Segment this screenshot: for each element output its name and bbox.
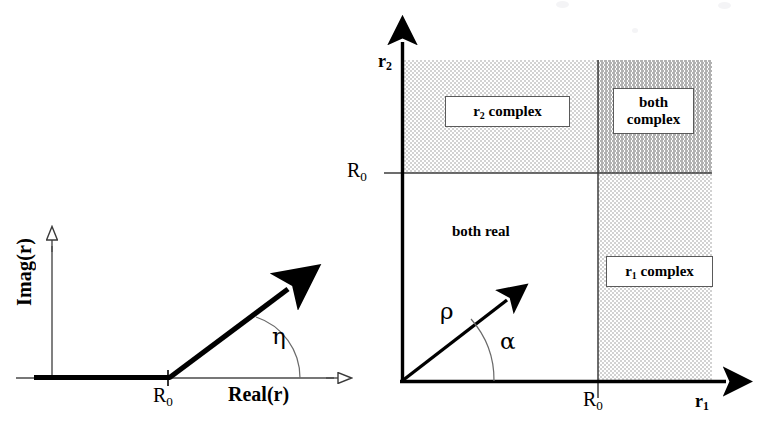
left-x-axis-label: Real(r) [228, 384, 289, 404]
left-r0-tick-label: R0 [153, 385, 173, 408]
right-rho-label: ρ [440, 300, 454, 323]
left-r0-subscript: 0 [166, 394, 173, 409]
right-y-axis-label: r2 [378, 52, 392, 73]
left-y-axis-label: Imag(r) [14, 238, 34, 306]
region-label-r1-complex: r1 complex [606, 256, 713, 287]
right-alpha-arc [471, 319, 494, 381]
right-x-axis-label: r1 [695, 392, 709, 413]
right-x-r0-label: R0 [583, 389, 603, 412]
left-panel-group [16, 240, 338, 386]
right-y-r0-subscript: 0 [360, 169, 367, 184]
left-eta-angle-label: η [272, 325, 286, 348]
right-y-axis-letter: r [378, 51, 386, 71]
region-label-r1-complex-text: r1 complex [625, 263, 694, 281]
region-label-r2-complex-text: r2 complex [473, 103, 542, 121]
right-x-r0-letter: R [583, 388, 596, 410]
region-label-both-real: both real [452, 224, 510, 239]
left-eta-ray [169, 289, 288, 378]
right-y-r0-letter: R [347, 159, 360, 181]
right-x-r0-subscript: 0 [596, 398, 603, 413]
right-y-r0-label: R0 [347, 160, 367, 183]
left-r0-letter: R [153, 384, 166, 406]
region-label-both-complex: both complex [613, 88, 694, 134]
right-x-axis-letter: r [695, 391, 703, 411]
right-alpha-label: α [500, 330, 516, 353]
right-rho-vector [402, 300, 507, 381]
figure-canvas: Imag(r) Real(r) R0 η r2 r1 R0 R0 r2 comp… [0, 0, 757, 437]
region-label-both-complex-line1: both [639, 94, 668, 111]
region-label-r2-complex: r2 complex [445, 96, 570, 127]
right-x-axis-subscript: 1 [703, 399, 709, 413]
right-y-axis-subscript: 2 [386, 59, 392, 73]
region-label-both-complex-line2: complex [627, 111, 680, 128]
